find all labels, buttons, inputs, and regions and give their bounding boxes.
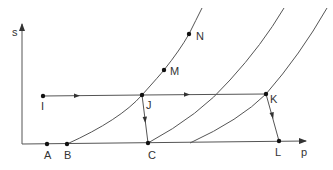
point-N: [187, 32, 191, 36]
label-A: A: [44, 149, 52, 161]
x-axis: [22, 141, 306, 144]
label-L: L: [275, 146, 281, 158]
point-C: [146, 141, 150, 145]
label-J: J: [146, 99, 152, 111]
label-C: C: [148, 149, 156, 161]
point-I: [41, 94, 45, 98]
arrow-J-C: [143, 117, 147, 124]
curve-2: [148, 8, 284, 143]
y-axis-label: s: [12, 26, 18, 38]
label-M: M: [170, 65, 179, 77]
arrow-K-L: [270, 112, 274, 119]
arrow-I-J: [74, 94, 80, 99]
curve-1: [67, 8, 202, 144]
label-B: B: [64, 149, 71, 161]
curve-3: [190, 8, 327, 143]
path-I-J: [43, 95, 142, 96]
point-J: [140, 93, 144, 97]
x-axis-label: p: [301, 146, 307, 158]
path-J-K: [142, 94, 266, 95]
point-L: [277, 139, 281, 143]
label-N: N: [196, 30, 204, 42]
diagram-canvas: s p A B C L I J K M N: [0, 0, 333, 170]
point-B: [65, 142, 69, 146]
label-I: I: [41, 100, 44, 112]
point-K: [264, 92, 268, 96]
point-A: [45, 142, 49, 146]
point-M: [162, 68, 166, 72]
arrow-J-K: [184, 92, 190, 97]
label-K: K: [270, 93, 278, 105]
